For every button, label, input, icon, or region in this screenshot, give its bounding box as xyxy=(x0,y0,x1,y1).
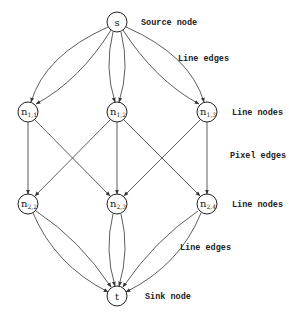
node-t: t xyxy=(107,286,127,306)
node-label: t xyxy=(115,291,119,302)
node-n23: n2,3 xyxy=(107,194,127,214)
edge-n22-t-b xyxy=(36,211,111,287)
annotation-sink-node: Sink node xyxy=(145,292,191,302)
edge-s-n11-b xyxy=(36,30,111,104)
edge-n23-t-b xyxy=(119,214,125,286)
node-n12: n1,2 xyxy=(107,102,127,122)
edge-s-n12-a xyxy=(109,32,115,102)
edge-n23-t-a xyxy=(109,214,115,286)
node-n11: n1,1 xyxy=(18,102,38,122)
annotation-source-node: Source node xyxy=(141,18,197,28)
pixel-edges xyxy=(28,120,207,196)
annotation-line-nodes-row1: Line nodes xyxy=(232,108,283,118)
annotation-line-edges-bottom: Line edges xyxy=(180,243,231,253)
line-edges-bottom xyxy=(33,211,201,292)
edge-s-n11-a xyxy=(31,27,108,102)
node-n13: n1,3 xyxy=(197,102,217,122)
edge-s-n13-b xyxy=(126,27,204,102)
line-edges-top xyxy=(31,27,204,104)
edge-n22-t-a xyxy=(33,213,108,292)
annotation-line-edges-top: Line edges xyxy=(178,54,229,64)
node-s: s xyxy=(107,12,127,32)
edge-s-n13-a xyxy=(123,30,199,104)
annotation-line-nodes-row2: Line nodes xyxy=(232,200,283,210)
edge-s-n12-b xyxy=(119,32,125,102)
graph-diagram: s n1,1 n1,2 n1,3 n2,2 n2,3 n2,4 t Source… xyxy=(0,0,289,316)
node-n24: n2,4 xyxy=(197,194,217,214)
node-n22: n2,2 xyxy=(18,194,38,214)
annotation-pixel-edges: Pixel edges xyxy=(230,151,286,161)
node-label: s xyxy=(114,17,119,28)
